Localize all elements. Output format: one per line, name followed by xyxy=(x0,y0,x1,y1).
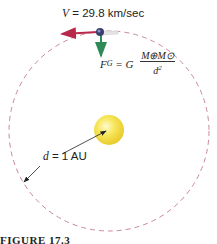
force-numerator: M⊕M⊙ xyxy=(140,50,175,62)
orbit-svg xyxy=(0,0,217,244)
force-eq: = G xyxy=(113,58,137,70)
distance-arrow-to-orbit xyxy=(24,166,40,182)
distance-eq: = xyxy=(49,150,62,162)
velocity-value: 29.8 km/sec xyxy=(82,7,144,19)
distance-value: 1 AU xyxy=(62,150,87,162)
velocity-label: V = 29.8 km/sec xyxy=(62,7,144,19)
distance-label: d = 1 AU xyxy=(43,150,87,162)
velocity-eq: = xyxy=(69,7,82,19)
figure-caption: FIGURE 17.3 xyxy=(0,234,70,244)
earth-highlight xyxy=(98,30,101,33)
force-equation: FG = G M⊕M⊙ d2 xyxy=(100,50,175,77)
orbit-diagram: V = 29.8 km/sec FG = G M⊕M⊙ d2 d = 1 AU … xyxy=(0,0,217,244)
denominator-exp: 2 xyxy=(158,64,162,72)
force-lhs: F xyxy=(100,58,107,70)
force-fraction: M⊕M⊙ d2 xyxy=(140,50,175,77)
sun-icon xyxy=(94,115,124,145)
force-denominator: d2 xyxy=(153,62,162,77)
velocity-arrow xyxy=(62,32,98,34)
velocity-var: V xyxy=(62,7,69,19)
